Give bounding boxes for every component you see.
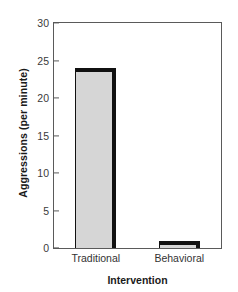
y-axis-tick-label: 10	[37, 168, 54, 179]
y-axis-tick-label: 15	[37, 130, 54, 141]
x-axis-title: Intervention	[53, 274, 222, 286]
y-axis-tick-mark	[54, 172, 59, 173]
plot-area: 051015202530TraditionalBehavioral	[53, 22, 222, 249]
y-axis-tick-label: 30	[37, 18, 54, 29]
y-axis-tick-mark	[54, 247, 59, 248]
x-axis-tick-label: Behavioral	[154, 252, 204, 264]
y-axis-tick-label: 20	[37, 93, 54, 104]
y-axis-tick-label: 0	[43, 243, 54, 254]
bar-chart: Aggressions (per minute) 051015202530Tra…	[0, 0, 238, 292]
y-axis-tick-mark	[54, 97, 59, 98]
y-axis-title: Aggressions (per minute)	[17, 23, 29, 243]
y-axis-tick-mark	[54, 22, 59, 23]
y-axis-tick-mark	[54, 60, 59, 61]
bar-traditional	[75, 68, 116, 248]
bar-behavioral	[159, 241, 200, 249]
y-axis-tick-label: 5	[43, 205, 54, 216]
y-axis-tick-mark	[54, 135, 59, 136]
y-axis-tick-mark	[54, 210, 59, 211]
x-axis-tick-label: Traditional	[71, 252, 120, 264]
y-axis-tick-label: 25	[37, 55, 54, 66]
